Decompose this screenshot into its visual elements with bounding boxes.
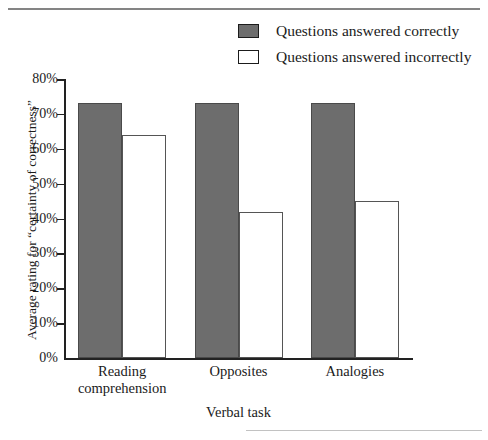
y-axis-tick-mark: [57, 288, 65, 290]
x-axis-line: [64, 358, 413, 360]
bar-correct: [195, 103, 239, 358]
y-axis-tick-label: 80%: [32, 72, 58, 86]
y-axis-tick-label: 10%: [32, 316, 58, 330]
y-axis-tick-mark: [57, 219, 65, 221]
y-axis-tick-label: 30%: [32, 246, 58, 260]
y-axis-tick-label: 60%: [32, 142, 58, 156]
y-axis-tick-mark: [57, 114, 65, 116]
bar-incorrect: [239, 212, 283, 358]
bars-layer: [64, 79, 413, 358]
y-axis-tick-mark: [57, 253, 65, 255]
x-axis-title: Verbal task: [64, 404, 413, 421]
bar-correct: [311, 103, 355, 358]
bar-correct: [78, 103, 122, 358]
y-axis-tick-mark: [57, 323, 65, 325]
x-axis-category-line: Analogies: [285, 363, 425, 380]
x-axis-category-label: Analogies: [285, 363, 425, 380]
y-axis-tick-mark: [57, 79, 65, 81]
bar-incorrect: [355, 201, 399, 358]
y-axis-tick-mark: [57, 184, 65, 186]
y-axis-tick-label: 70%: [32, 107, 58, 121]
y-axis-tick-labels: 80%70%60%50%40%30%20%10%0%: [18, 72, 58, 364]
y-axis-tick-label: 40%: [32, 212, 58, 226]
y-axis-tick-mark: [57, 149, 65, 151]
x-axis-category-labels: ReadingcomprehensionOppositesAnalogies: [64, 363, 413, 409]
bar-incorrect: [122, 135, 166, 358]
y-axis-tick-label: 50%: [32, 177, 58, 191]
chart-plot-area: Average rating for “certainty of correct…: [0, 0, 488, 440]
x-axis-category-line: comprehension: [52, 380, 192, 397]
y-axis-tick-label: 20%: [32, 281, 58, 295]
